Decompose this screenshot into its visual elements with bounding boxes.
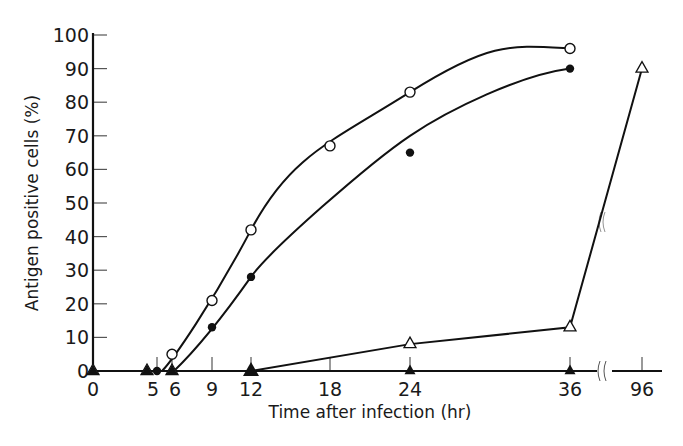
open-circle-marker <box>325 141 335 151</box>
filled-circle-marker <box>208 323 216 331</box>
filled-triangle-marker <box>142 365 153 375</box>
x-tick-label: 9 <box>206 378 218 400</box>
y-tick-label: 30 <box>65 259 89 281</box>
filled-circle-marker <box>566 64 574 72</box>
y-tick-label: 50 <box>65 192 89 214</box>
filled-triangle-marker <box>88 365 99 375</box>
y-axis-title: Antigen positive cells (%) <box>22 95 42 311</box>
x-tick-label: 96 <box>630 378 654 400</box>
x-axis-title: Time after infection (hr) <box>268 402 472 422</box>
filled-circle-marker <box>247 273 255 281</box>
y-axis-ticks: 0102030405060708090100 <box>53 24 107 382</box>
x-tick-label: 24 <box>398 378 422 400</box>
y-tick-label: 80 <box>65 91 89 113</box>
x-tick-label: 12 <box>239 378 263 400</box>
filled-triangle-marker <box>565 365 576 375</box>
filled-triangle-marker <box>405 365 416 375</box>
axes <box>93 33 662 381</box>
open-circle-marker <box>405 87 415 97</box>
open-circle-marker <box>565 43 575 53</box>
open-circle-marker <box>207 295 217 305</box>
filled-triangle-marker <box>243 362 259 376</box>
y-tick-label: 70 <box>65 125 89 147</box>
open-circle-marker <box>246 225 256 235</box>
x-tick-label: 0 <box>87 378 99 400</box>
y-tick-label: 40 <box>65 226 89 248</box>
y-tick-label: 100 <box>53 24 89 46</box>
x-axis-break-icon <box>598 361 606 381</box>
open-triangle-marker <box>564 320 576 331</box>
y-tick-label: 60 <box>65 158 89 180</box>
y-tick-label: 20 <box>65 293 89 315</box>
y-tick-label: 10 <box>65 326 89 348</box>
filled-circle-curve <box>174 69 570 371</box>
open-triangle-marker <box>636 62 648 73</box>
x-tick-label: 6 <box>169 378 181 400</box>
open-circle-marker <box>167 349 177 359</box>
data-markers <box>87 43 648 376</box>
x-tick-label: 36 <box>558 378 582 400</box>
x-tick-label: 5 <box>147 378 159 400</box>
filled-circle-marker <box>406 148 414 156</box>
open-circle-curve <box>162 47 570 371</box>
line-chart: 0102030405060708090100 05691218243696 Ti… <box>0 0 683 446</box>
x-tick-label: 18 <box>318 378 342 400</box>
open-triangle-marker <box>404 337 416 348</box>
y-tick-label: 90 <box>65 58 89 80</box>
filled-circle-marker <box>153 367 161 375</box>
